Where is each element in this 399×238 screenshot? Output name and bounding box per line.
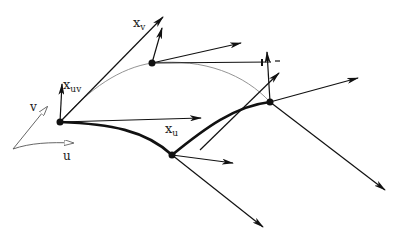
vector-xu-A <box>60 118 201 122</box>
vector-twist-B <box>152 28 162 63</box>
vector-tangent-D-down <box>270 102 385 190</box>
corner-point-A <box>57 119 64 126</box>
vector-tangent-B <box>152 43 241 63</box>
label-xu: xu <box>165 121 178 138</box>
label-xv: xv <box>133 15 146 32</box>
corner-point-C <box>169 152 176 159</box>
boundary-curve-A-C <box>60 122 172 155</box>
vector-twist-D <box>267 52 270 102</box>
label-xuv: xuv <box>63 77 82 94</box>
boundary-curve-C-D <box>172 102 270 155</box>
label-u: u <box>63 149 71 163</box>
patch-diagram: xv xuv xu v u <box>0 0 399 238</box>
corner-point-D <box>267 99 274 106</box>
vector-tangent-C-down <box>172 155 263 227</box>
vector-xuv-A <box>60 84 62 122</box>
corner-point-B <box>149 60 156 67</box>
label-v: v <box>29 100 37 114</box>
vector-cross-D <box>200 73 279 150</box>
vector-tangent-D-right <box>270 78 358 102</box>
vector-xv-A <box>60 17 163 122</box>
